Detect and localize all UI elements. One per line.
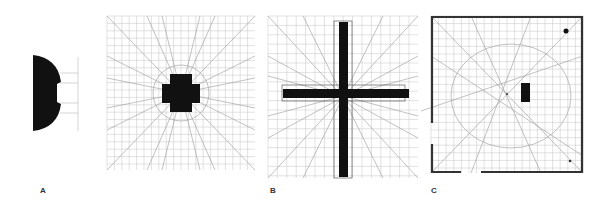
plus-shape bbox=[162, 74, 200, 112]
marker-dot bbox=[564, 29, 569, 34]
marker-dot bbox=[569, 160, 572, 163]
marker-dot bbox=[506, 93, 508, 95]
central-block bbox=[521, 83, 530, 102]
label-b: B bbox=[270, 186, 276, 195]
cross-horizontal bbox=[283, 89, 409, 98]
plan-panel-c bbox=[431, 16, 583, 173]
cross-vertical bbox=[339, 22, 348, 177]
grid-panel-a bbox=[107, 16, 255, 170]
label-c: C bbox=[431, 186, 437, 195]
label-a: A bbox=[40, 186, 46, 195]
grid-panel-b bbox=[268, 16, 418, 178]
